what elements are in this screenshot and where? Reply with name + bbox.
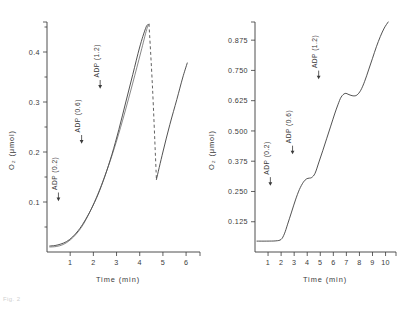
adp-annotation-arrowhead (268, 182, 272, 186)
y-tick-label: 0.375 (228, 157, 248, 166)
adp-annotation-label: ADP (0.6) (285, 110, 293, 143)
x-tick-label: 4 (138, 258, 142, 267)
y-tick-label: 0.875 (228, 36, 248, 45)
x-tick-label: 8 (357, 258, 361, 267)
y-tick-label: 0.250 (228, 187, 248, 196)
adp-annotation-label: ADP (0.2) (263, 141, 271, 174)
data-trace-trace-3 (156, 63, 187, 180)
y-tick-label: 0.4 (29, 48, 40, 57)
y-tick-label: 0.750 (228, 66, 248, 75)
axis-lines (47, 22, 200, 252)
adp-annotation-arrowhead (317, 76, 321, 80)
y-tick-label: 0.500 (228, 127, 248, 136)
x-tick-label: 2 (279, 258, 283, 267)
x-tick-label: 4 (305, 258, 309, 267)
x-tick-label: 9 (370, 258, 374, 267)
x-tick-label: 7 (344, 258, 348, 267)
adp-annotation-arrowhead (80, 140, 84, 144)
figure-caption: Fig. 2 (3, 296, 20, 302)
x-tick-label: 5 (318, 258, 322, 267)
data-trace-dashed-drop (149, 24, 156, 180)
y-tick-label: 0.625 (228, 96, 248, 105)
x-tick-label: 5 (161, 258, 165, 267)
oxygraph-figure: 0.10.20.30.4123456 ADP (0.2)ADP (0.6)ADP… (0, 0, 408, 314)
adp-annotation-arrowhead (98, 85, 102, 89)
x-tick-label: 6 (184, 258, 188, 267)
x-tick-label: 1 (266, 258, 270, 267)
x-tick-label: 3 (114, 258, 118, 267)
chart-panel-right: 0.1250.2500.3750.5000.6250.7500.87512345… (200, 0, 408, 300)
y-tick-label: 0.1 (29, 198, 40, 207)
data-trace-oxygraph-trace (257, 22, 388, 241)
x-tick-label: 3 (292, 258, 296, 267)
y-tick-label: 0.125 (228, 217, 248, 226)
x-tick-label: 10 (381, 258, 390, 267)
right-x-axis-title: Time (min) (303, 275, 347, 284)
adp-annotation-label: ADP (0.2) (51, 157, 59, 190)
right-y-axis-title: O₂ (μmol) (207, 130, 216, 170)
x-tick-label: 2 (91, 258, 95, 267)
x-tick-label: 1 (68, 258, 72, 267)
left-y-axis-title: O₂ (μmol) (7, 130, 16, 170)
y-tick-label: 0.3 (29, 98, 40, 107)
left-chart-svg: 0.10.20.30.4123456 ADP (0.2)ADP (0.6)ADP… (0, 0, 208, 300)
adp-annotation-arrowhead (291, 151, 295, 155)
adp-annotation-arrowhead (57, 198, 61, 202)
right-chart-svg: 0.1250.2500.3750.5000.6250.7500.87512345… (200, 0, 408, 300)
left-x-axis-title: Time (min) (96, 275, 140, 284)
adp-annotation-label: ADP (0.6) (74, 99, 82, 132)
x-tick-label: 6 (331, 258, 335, 267)
y-tick-label: 0.2 (29, 148, 40, 157)
chart-panel-left: 0.10.20.30.4123456 ADP (0.2)ADP (0.6)ADP… (0, 0, 208, 300)
axis-lines (255, 22, 396, 252)
adp-annotation-label: ADP (1.2) (311, 35, 319, 68)
adp-annotation-label: ADP (1.2) (93, 44, 101, 77)
